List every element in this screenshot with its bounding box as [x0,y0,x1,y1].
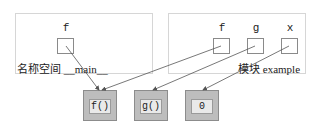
reference-arrows [0,0,317,137]
arrow-main-f-to-f [66,46,99,90]
arrow-example-x-to-zero [203,46,289,90]
